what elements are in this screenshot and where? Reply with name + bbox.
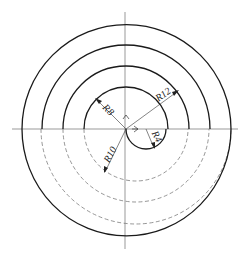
r12-label: R12 (152, 85, 172, 104)
spiral-drawing: R8 R12 R10 R4 (0, 0, 245, 259)
center-mark-up-icon (123, 115, 129, 119)
r10-label: R10 (101, 145, 119, 165)
r8-label: R8 (100, 101, 116, 117)
center-mark-right-icon (132, 126, 138, 132)
lower-dashed-arc-3 (41, 129, 231, 224)
upper-arc-outer (22, 25, 231, 129)
r8-arrow (95, 98, 102, 104)
upper-arc-r12 (63, 66, 189, 129)
lower-arc-outer (22, 129, 231, 236)
lower-dashed-arc-r10 (84, 129, 188, 181)
